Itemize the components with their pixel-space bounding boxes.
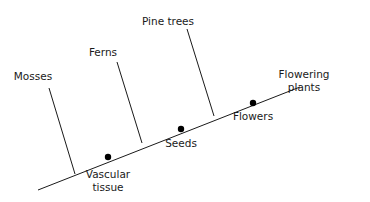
trait-flowers: Flowers: [233, 100, 273, 122]
branch-line: [187, 29, 214, 116]
trait-label-line2: tissue: [92, 181, 123, 193]
trait-label: Seeds: [165, 137, 197, 149]
terminal-flowering-plants: Flowering plants: [279, 68, 330, 93]
branch-mosses: Mosses: [14, 70, 75, 174]
trait-dot-icon: [178, 126, 184, 132]
branch-pine-trees: Pine trees: [142, 15, 214, 116]
branch-ferns: Ferns: [89, 46, 142, 143]
cladogram: MossesFernsPine trees VasculartissueSeed…: [0, 0, 370, 202]
trait-label: Flowers: [233, 110, 273, 122]
branches: MossesFernsPine trees: [14, 15, 214, 174]
terminal-label-line2: plants: [288, 81, 320, 93]
branch-line: [117, 62, 142, 143]
trait-dot-icon: [105, 154, 111, 160]
branch-line: [49, 88, 75, 174]
branch-label: Mosses: [14, 70, 52, 82]
branch-label: Pine trees: [142, 15, 194, 27]
trait-label: Vascular: [86, 168, 131, 180]
trait-vascular: Vasculartissue: [86, 154, 131, 193]
traits: VasculartissueSeedsFlowers: [86, 100, 273, 193]
terminal-label-line1: Flowering: [279, 68, 330, 80]
trait-dot-icon: [250, 100, 256, 106]
branch-label: Ferns: [89, 46, 117, 58]
